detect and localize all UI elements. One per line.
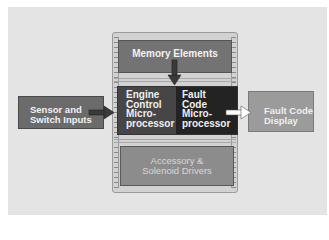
processor-band: Engine Control Micro- processor Fault Co… [117,86,238,135]
engine-processor-label-line: processor [126,119,176,129]
accessory-solenoid-drivers-block: Accessory & Solenoid Drivers [120,146,234,186]
chip-divider-line [114,142,236,143]
fault-code-display-block: Fault Code Display [248,91,314,132]
engine-control-microprocessor-block: Engine Control Micro- processor [118,87,176,134]
chip-divider-line [114,139,236,140]
memory-elements-label: Memory Elements [132,48,218,59]
arrow-down-icon [168,60,182,86]
arrow-right-icon [89,106,115,120]
display-label-line: Display [264,116,313,126]
accessory-label-line: Solenoid Drivers [142,166,212,176]
arrow-right-outline-icon [226,106,252,120]
